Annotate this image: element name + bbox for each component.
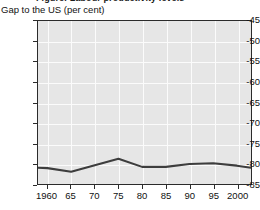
x-tick-mark [94, 185, 95, 189]
x-tick-mark [118, 185, 119, 189]
y-tick-mark [33, 61, 37, 62]
y-tick-label: -65 [226, 98, 260, 107]
y-tick-mark [33, 123, 37, 124]
plot-area [37, 20, 252, 185]
y-tick-mark [33, 164, 37, 165]
x-tick-mark [190, 185, 191, 189]
y-tick-label: -85 [226, 180, 260, 189]
y-tick-mark [33, 82, 37, 83]
y-tick-label: -60 [226, 77, 260, 86]
y-tick-label: -75 [226, 139, 260, 148]
y-tick-mark [33, 185, 37, 186]
y-tick-mark [33, 20, 37, 21]
figure-title-text: Figure: Labour productivity levels [36, 0, 184, 3]
x-tick-mark [238, 185, 239, 189]
y-tick-label: -45 [226, 15, 260, 24]
x-tick-mark [214, 185, 215, 189]
x-tick-mark [142, 185, 143, 189]
y-tick-label: -80 [226, 159, 260, 168]
x-tick-mark [70, 185, 71, 189]
x-tick-mark [166, 185, 167, 189]
y-tick-mark [33, 41, 37, 42]
x-tick-mark [47, 185, 48, 189]
y-tick-mark [33, 144, 37, 145]
y-tick-label: -55 [226, 56, 260, 65]
y-tick-mark [33, 103, 37, 104]
series-line-gap-to-the-us [38, 21, 251, 184]
y-tick-label: -50 [226, 36, 260, 45]
chart-figure: Figure: Labour productivity levels Gap t… [0, 0, 260, 210]
y-axis-title: Gap to the US (per cent) [1, 4, 105, 15]
y-tick-label: -70 [226, 118, 260, 127]
x-tick-label: 2000 [218, 191, 258, 201]
